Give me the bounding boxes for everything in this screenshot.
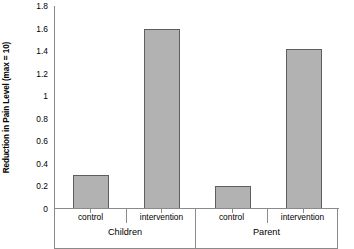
x-group-divider [267, 209, 268, 223]
x-category-label: control [78, 212, 103, 222]
x-tick-mark [90, 209, 91, 213]
y-tick-label: 1.4 [36, 46, 48, 56]
x-group-label: Children [55, 227, 195, 237]
x-category-label: intervention [140, 212, 183, 222]
x-group-label: Parent [196, 227, 337, 237]
x-group-box: controlinterventionParent [196, 209, 338, 249]
y-axis-title: Reduction in Pain Level (max = 10) [0, 0, 14, 215]
bar [144, 29, 180, 209]
y-tick-label: 0 [43, 204, 48, 214]
bar [286, 49, 322, 209]
y-tick-label: 0.8 [36, 114, 48, 124]
y-tick-label: 0.6 [36, 136, 48, 146]
y-axis-title-text: Reduction in Pain Level (max = 10) [3, 42, 12, 174]
x-category-label: intervention [281, 212, 324, 222]
y-tick-label: 1.2 [36, 69, 48, 79]
y-axis-tick-labels: 1.81.61.41.210.80.60.40.20 [14, 0, 52, 215]
bar [73, 175, 109, 209]
y-tick-label: 0.2 [36, 181, 48, 191]
y-tick-label: 1.6 [36, 24, 48, 34]
x-group-box: controlinterventionChildren [54, 209, 196, 249]
bar [215, 186, 251, 209]
bar-chart: Reduction in Pain Level (max = 10) 1.81.… [0, 0, 354, 249]
x-category-label: control [219, 212, 244, 222]
x-tick-mark [232, 209, 233, 213]
y-tick-label: 0.4 [36, 159, 48, 169]
plot-area [54, 6, 338, 209]
y-tick-label: 1.8 [36, 1, 48, 11]
x-tick-mark [161, 209, 162, 213]
y-tick-label: 1 [43, 91, 48, 101]
x-group-divider [126, 209, 127, 223]
x-tick-mark [303, 209, 304, 213]
x-axis-group-labels: controlinterventionChildrencontrolinterv… [54, 209, 339, 249]
